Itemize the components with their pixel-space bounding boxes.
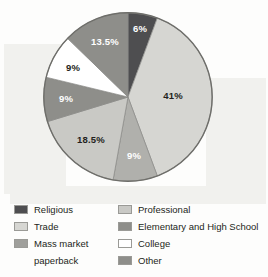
legend-item-label: College <box>138 239 170 249</box>
legend-color-swatch <box>14 222 28 231</box>
legend-item[interactable]: Professional <box>118 201 264 218</box>
legend-item-label: Elementary and High School <box>138 222 258 232</box>
legend-color-swatch <box>118 256 132 265</box>
pie-chart-figure: 6%41%9%18.5%9%9%13.5% ReligiousTradeMass… <box>0 0 268 277</box>
pie-slice-group <box>44 13 212 181</box>
legend-item[interactable]: College <box>118 235 264 252</box>
legend-item[interactable]: Other <box>118 252 264 269</box>
legend-column-left: ReligiousTradeMass marketpaperback <box>14 201 118 271</box>
legend-color-swatch <box>14 205 28 214</box>
legend-color-swatch <box>118 222 132 231</box>
legend-item[interactable]: Trade <box>14 218 118 235</box>
legend-column-right: ProfessionalElementary and High SchoolCo… <box>118 201 264 271</box>
legend-item-label: Professional <box>138 205 190 215</box>
legend-item[interactable]: Elementary and High School <box>118 218 264 235</box>
legend-color-swatch <box>118 239 132 248</box>
legend-item-label: paperback <box>34 256 78 266</box>
legend-color-swatch <box>14 239 28 248</box>
chart-legend: ReligiousTradeMass marketpaperback Profe… <box>14 201 264 271</box>
legend-item-label: Religious <box>34 205 73 215</box>
pie-svg <box>41 10 215 184</box>
legend-color-swatch <box>118 205 132 214</box>
legend-item-label: Trade <box>34 222 58 232</box>
legend-item[interactable]: Mass market <box>14 235 118 252</box>
legend-item[interactable]: paperback <box>14 252 118 269</box>
legend-item-label: Mass market <box>34 239 88 249</box>
legend-item[interactable]: Religious <box>14 201 118 218</box>
legend-item-label: Other <box>138 256 162 266</box>
chart-plot-area: 6%41%9%18.5%9%9%13.5% <box>0 0 268 192</box>
